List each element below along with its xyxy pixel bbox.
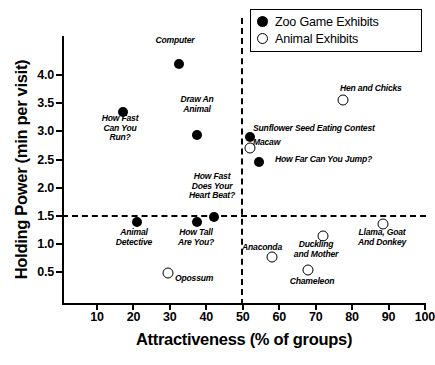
data-point-label: Duckling and Mother bbox=[294, 240, 338, 259]
data-point-label: Sunflower Seed Eating Contest bbox=[253, 124, 375, 134]
data-point-label: Computer bbox=[156, 36, 195, 46]
data-point-label: How Far Can You Jump? bbox=[275, 155, 372, 165]
legend-entry: Animal Exhibits bbox=[257, 30, 415, 47]
data-point bbox=[192, 130, 202, 140]
data-point bbox=[209, 212, 219, 222]
legend-label: Zoo Game Exhibits bbox=[275, 15, 379, 29]
data-point bbox=[192, 217, 202, 227]
open-circle-icon bbox=[257, 33, 268, 44]
y-axis-title: Holding Power (min per visit) bbox=[12, 45, 31, 295]
chart-legend: Zoo Game ExhibitsAnimal Exhibits bbox=[250, 9, 422, 52]
legend-label: Animal Exhibits bbox=[275, 32, 358, 46]
data-point-label: Anaconda bbox=[242, 243, 282, 253]
x-axis-title: Attractiveness (% of groups) bbox=[62, 330, 426, 349]
data-point-label: How Tall Are You? bbox=[178, 228, 214, 247]
data-point-label: How Fast Can You Run? bbox=[102, 114, 139, 143]
data-point bbox=[303, 264, 314, 275]
data-point-label: Chameleon bbox=[290, 277, 335, 287]
data-point bbox=[132, 217, 142, 227]
data-point-label: How Fast Does Your Heart Beat? bbox=[189, 172, 235, 201]
data-point-label: Llama, Goat And Donkey bbox=[358, 228, 406, 247]
data-point bbox=[254, 157, 264, 167]
data-point-label: Macaw bbox=[253, 138, 280, 148]
data-point bbox=[163, 267, 174, 278]
data-point-label: Hen and Chicks bbox=[340, 84, 402, 94]
data-point-label: Animal Detective bbox=[116, 228, 152, 247]
data-point bbox=[266, 251, 277, 262]
filled-circle-icon bbox=[257, 16, 268, 27]
data-point bbox=[338, 95, 349, 106]
data-point bbox=[174, 59, 184, 69]
data-point-label: Opossum bbox=[175, 274, 213, 284]
legend-entry: Zoo Game Exhibits bbox=[257, 13, 415, 30]
data-point-label: Draw An Animal bbox=[180, 95, 213, 114]
